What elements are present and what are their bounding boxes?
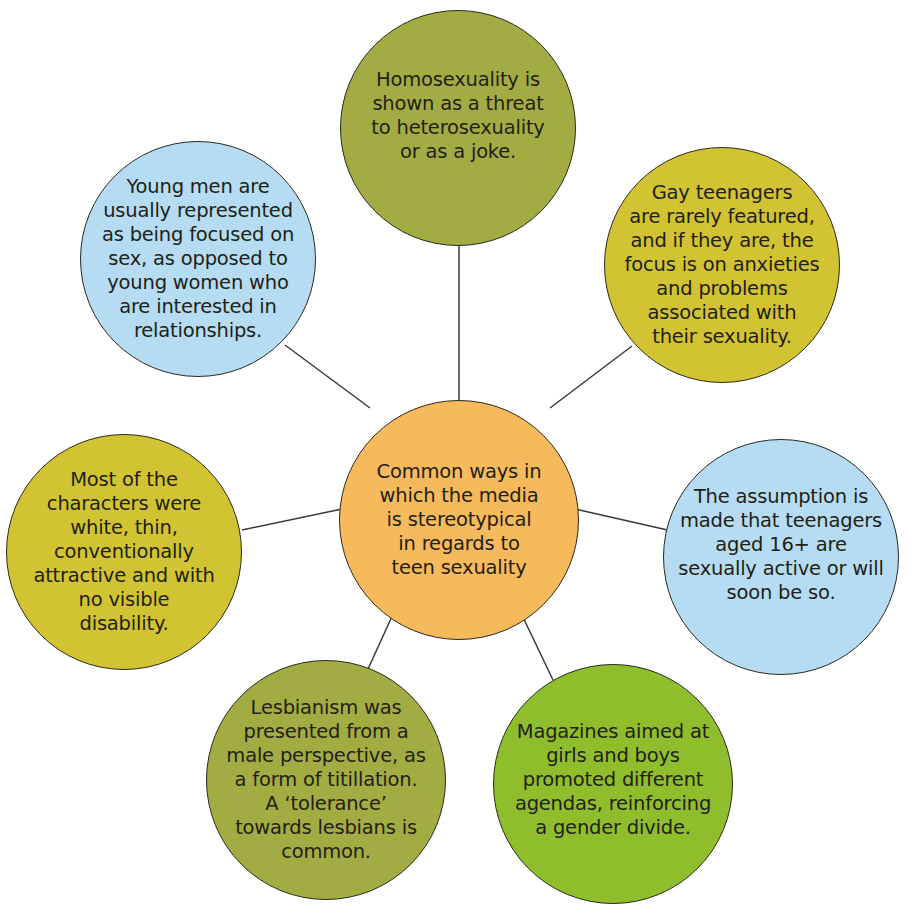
node-top: Homosexuality is shown as a threat to he… [340,10,576,246]
node-top-right: Gay teenagers are rarely featured, and i… [604,147,840,383]
node-bottom-right-text: Magazines aimed at girls and boys promot… [515,720,711,840]
connector-top-right [550,346,632,408]
hub-node-text: Common ways in which the media is stereo… [377,460,542,580]
node-top-right-text: Gay teenagers are rarely featured, and i… [625,181,820,349]
node-bottom-left-text: Lesbianism was presented from a male per… [226,696,425,864]
node-right-text: The assumption is made that teenagers ag… [678,485,883,605]
node-left-text: Most of the characters were white, thin,… [33,468,214,636]
node-right: The assumption is made that teenagers ag… [663,439,899,675]
node-bottom-right: Magazines aimed at girls and boys promot… [493,664,733,904]
hub-node: Common ways in which the media is stereo… [339,400,579,640]
connector-left [242,509,342,530]
mind-map-diagram: Common ways in which the media is stereo… [0,0,915,920]
node-top-left: Young men are usually represented as bei… [80,141,316,377]
node-left: Most of the characters were white, thin,… [6,434,242,670]
node-top-text: Homosexuality is shown as a threat to he… [371,68,544,164]
node-top-left-text: Young men are usually represented as bei… [102,175,294,343]
connector-right [575,509,672,531]
node-bottom-left: Lesbianism was presented from a male per… [206,660,446,900]
connector-top-left [285,345,370,408]
